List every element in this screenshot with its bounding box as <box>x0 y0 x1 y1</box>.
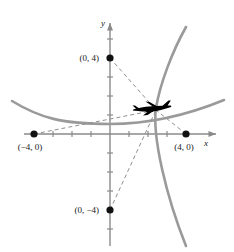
plot-canvas: x y <box>0 0 234 252</box>
x-axis-arrowhead <box>209 131 217 137</box>
point-label: (0, −4) <box>74 205 99 215</box>
point-dot <box>106 54 113 61</box>
point-dot <box>182 130 189 137</box>
point-label: (4, 0) <box>174 142 194 152</box>
y-axis-arrowhead <box>107 23 113 31</box>
parabola-curve <box>12 100 224 124</box>
point-0-neg4: (0, −4) <box>74 205 113 215</box>
curves-group <box>12 27 224 246</box>
point-label: (0, 4) <box>80 53 100 63</box>
point-dot <box>106 206 113 213</box>
y-axis-label: y <box>100 18 105 28</box>
hyperbola-branch-curve <box>155 27 186 246</box>
point-label: (−4, 0) <box>18 142 43 152</box>
point-0-4: (0, 4) <box>80 53 114 63</box>
point-dot <box>30 130 37 137</box>
x-axis-label: x <box>203 138 208 148</box>
coordinate-plane-figure: x y <box>0 0 234 252</box>
